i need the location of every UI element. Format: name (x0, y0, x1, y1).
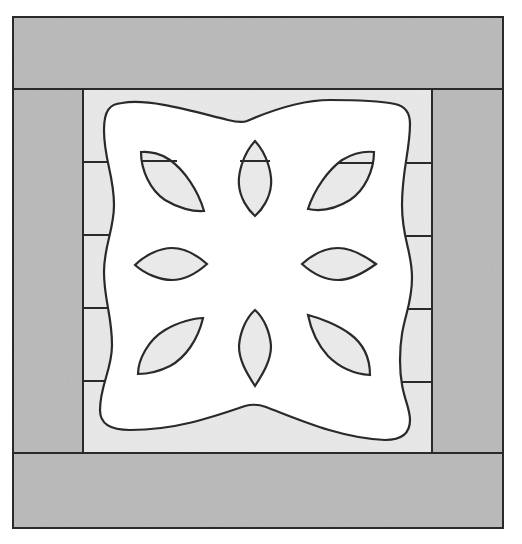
quilt-block-diagram (0, 0, 522, 544)
right-border-strip (432, 89, 503, 453)
bottom-border-strip (13, 453, 503, 528)
top-border-strip (13, 17, 503, 89)
left-border-strip (13, 89, 83, 453)
